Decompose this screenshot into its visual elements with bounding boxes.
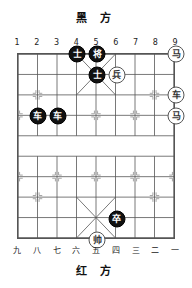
file-label-bottom-2: 八 [33, 244, 41, 255]
file-labels-bottom: 九八七六五四三二一 [0, 244, 192, 256]
black-general-c5r1[interactable]: 将 [89, 46, 106, 63]
piece-glyph: 车 [53, 112, 62, 121]
file-label-bottom-9: 一 [171, 244, 179, 255]
piece-glyph: 士 [73, 50, 82, 59]
black-advisor-c5r2[interactable]: 士 [89, 66, 106, 83]
black-chariot-c3r4[interactable]: 车 [49, 108, 66, 125]
file-label-top-8: 8 [153, 38, 158, 47]
xiangqi-diagram: 黑 方 123456789 士将马士兵车车车马卒帅 九八七六五四三二一 红 方 [0, 0, 192, 288]
black-side-title: 黑 方 [0, 9, 192, 25]
piece-glyph: 将 [93, 50, 102, 59]
file-label-top-2: 2 [34, 38, 39, 47]
piece-glyph: 车 [172, 91, 181, 100]
file-label-top-1: 1 [14, 38, 19, 47]
black-soldier-c6r9[interactable]: 卒 [108, 211, 125, 228]
file-label-bottom-3: 七 [53, 244, 61, 255]
piece-glyph: 马 [172, 112, 181, 121]
file-label-bottom-4: 六 [72, 244, 80, 255]
piece-glyph: 卒 [112, 215, 121, 224]
red-horse-c9r1[interactable]: 马 [168, 46, 185, 63]
xiangqi-board[interactable]: 士将马士兵车车车马卒帅 [17, 53, 175, 239]
black-chariot-c2r4[interactable]: 车 [29, 108, 46, 125]
piece-glyph: 兵 [112, 70, 121, 79]
red-horse-c9r4[interactable]: 马 [168, 108, 185, 125]
piece-glyph: 士 [93, 70, 102, 79]
piece-glyph: 车 [33, 112, 42, 121]
file-label-top-6: 6 [113, 38, 118, 47]
file-label-bottom-6: 四 [112, 244, 120, 255]
red-chariot-c9r3[interactable]: 车 [168, 87, 185, 104]
file-label-bottom-8: 二 [151, 244, 159, 255]
file-label-bottom-1: 九 [13, 244, 21, 255]
file-label-bottom-5: 五 [92, 244, 100, 255]
file-label-top-3: 3 [54, 38, 59, 47]
black-advisor-c4r1[interactable]: 士 [69, 46, 86, 63]
red-soldier-c6r2[interactable]: 兵 [108, 66, 125, 83]
red-side-title: 红 方 [0, 262, 192, 278]
file-label-bottom-7: 三 [132, 244, 140, 255]
piece-glyph: 马 [172, 50, 181, 59]
file-label-top-7: 7 [133, 38, 138, 47]
